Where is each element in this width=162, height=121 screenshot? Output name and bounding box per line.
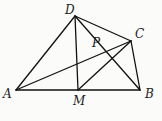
segment-CB xyxy=(131,41,140,90)
segment-DC xyxy=(75,16,131,41)
segment-MC xyxy=(78,41,131,90)
geometry-figure: ABCDMP xyxy=(0,0,162,121)
point-label-M: M xyxy=(72,94,86,108)
segment-AD xyxy=(16,16,75,90)
point-label-C: C xyxy=(135,27,144,41)
segment-AC xyxy=(16,41,131,90)
point-label-P: P xyxy=(91,36,101,50)
segment-DM xyxy=(75,16,78,90)
segment-DB xyxy=(75,16,140,90)
point-label-D: D xyxy=(64,3,75,17)
point-label-A: A xyxy=(2,87,12,101)
point-label-B: B xyxy=(144,87,154,101)
quadrilateral-diagram: ABCDMP xyxy=(0,0,162,121)
